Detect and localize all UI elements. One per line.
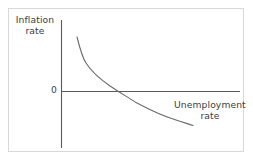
x-axis-label-line2: rate bbox=[174, 110, 246, 121]
y-axis-label: Inflation rate bbox=[10, 14, 60, 36]
y-axis-label-line2: rate bbox=[10, 25, 60, 36]
y-axis-label-line1: Inflation bbox=[16, 14, 54, 25]
origin-tick-label: 0 bbox=[46, 84, 57, 95]
phillips-curve-figure: Inflation rate Unemployment rate 0 bbox=[0, 0, 253, 164]
x-axis-label: Unemployment rate bbox=[174, 99, 246, 121]
x-axis-label-line1: Unemployment bbox=[174, 99, 246, 110]
